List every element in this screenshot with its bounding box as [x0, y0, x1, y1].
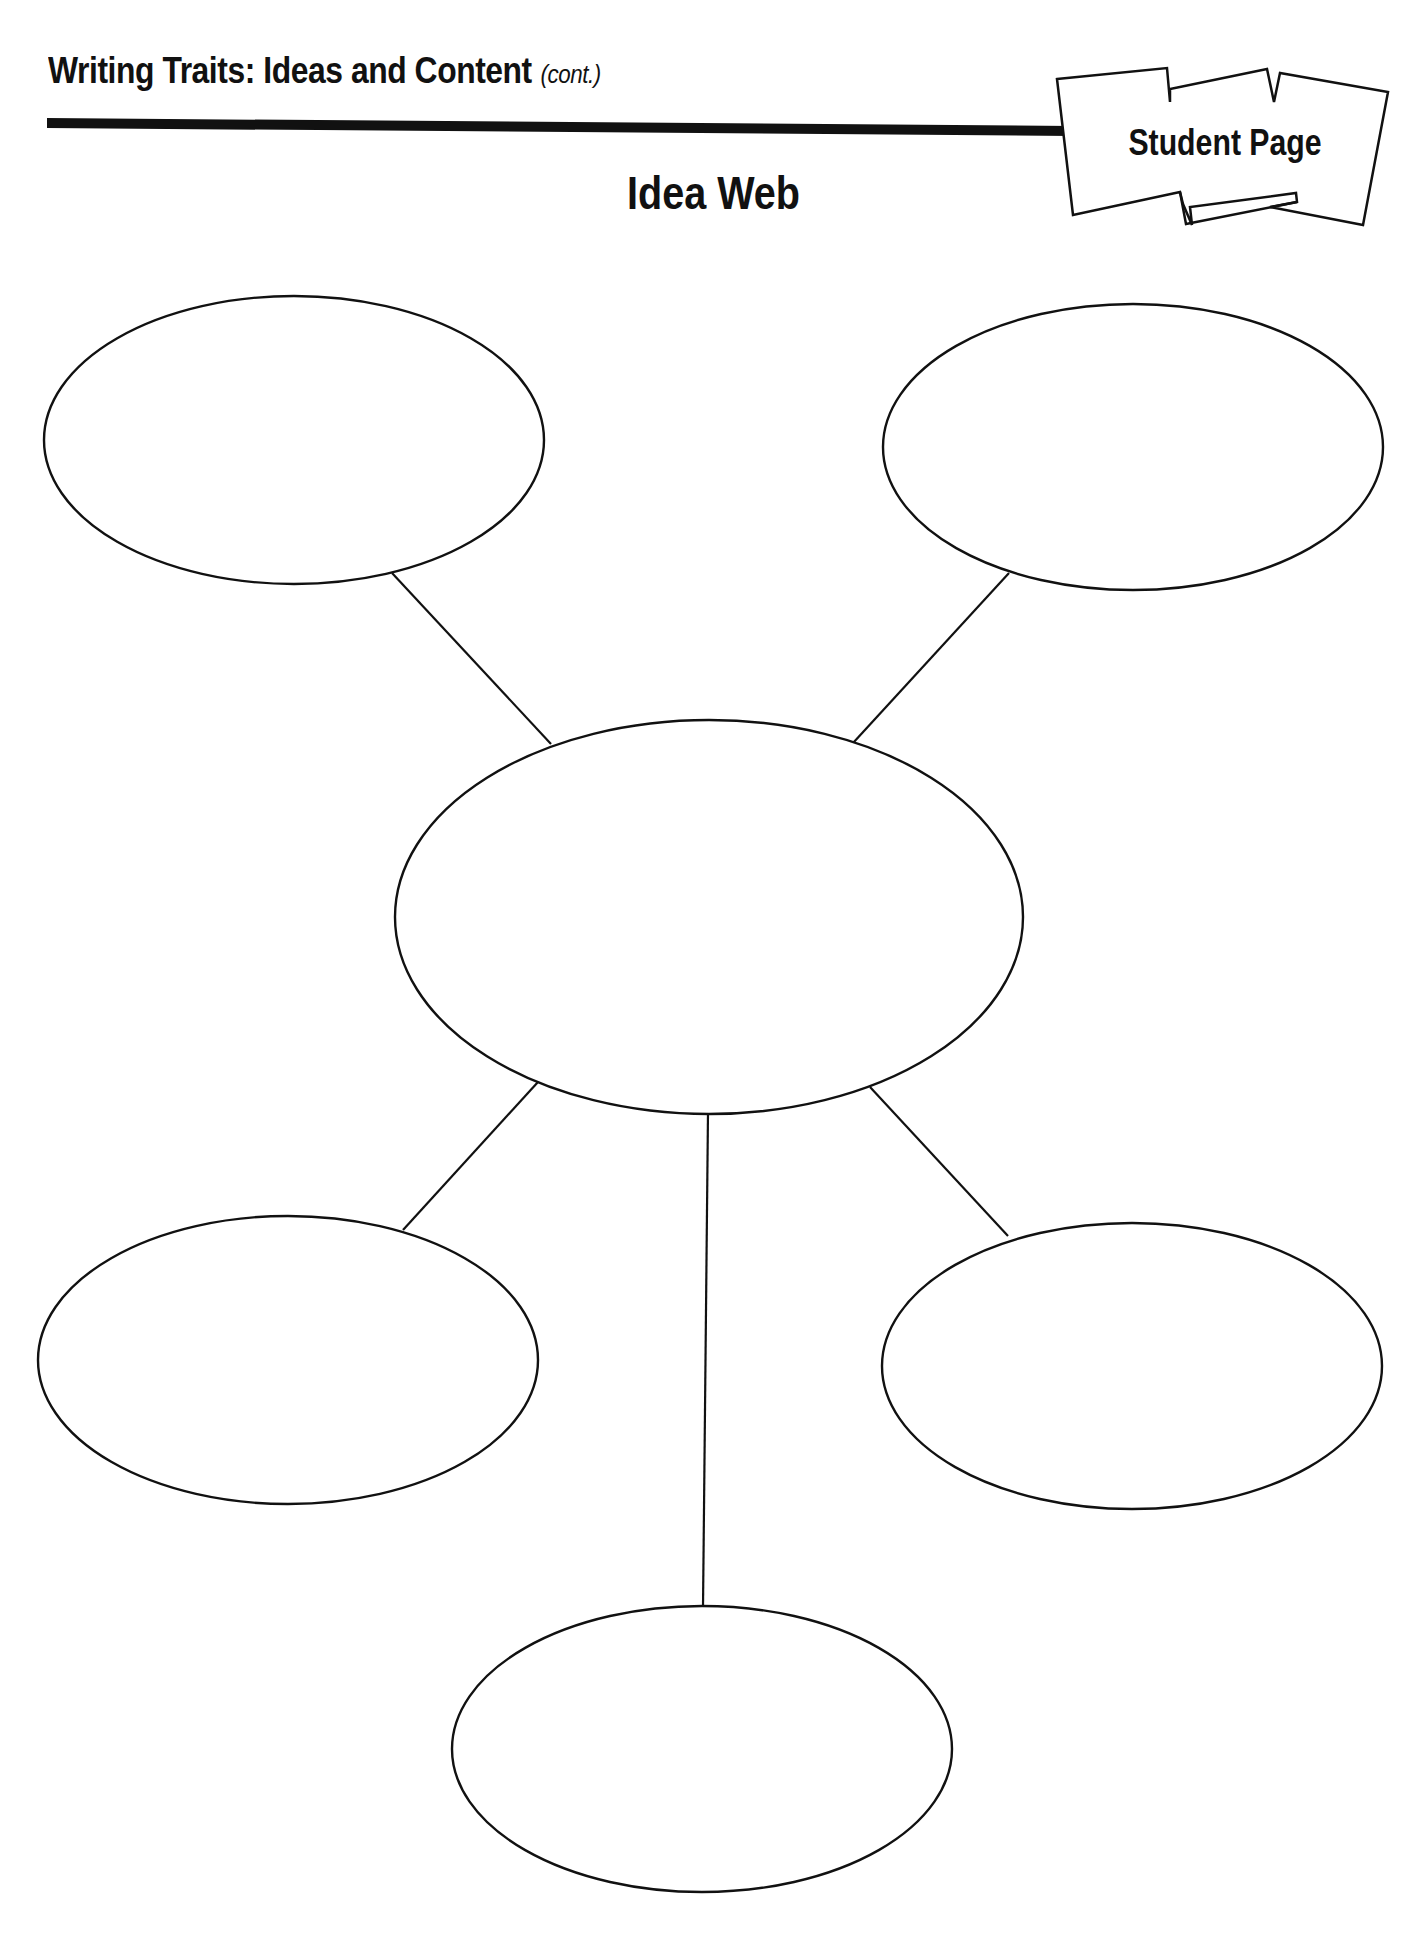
edge-bottom: [703, 1112, 708, 1608]
student-page-label: Student Page: [1090, 122, 1360, 164]
edge-top-left: [392, 573, 551, 744]
student-page-text: Student Page: [1128, 122, 1321, 164]
edge-bottom-right: [870, 1087, 1008, 1236]
page-title: Idea Web: [0, 166, 1428, 220]
node-top-left[interactable]: [44, 296, 544, 584]
header-rule: [47, 118, 1072, 136]
page-title-text: Idea Web: [628, 166, 801, 220]
node-center[interactable]: [395, 720, 1023, 1114]
node-bottom[interactable]: [452, 1606, 952, 1892]
node-top-right[interactable]: [883, 304, 1383, 590]
edge-top-right: [853, 573, 1009, 743]
idea-web-diagram: [0, 0, 1428, 1933]
node-bottom-right[interactable]: [882, 1223, 1382, 1509]
edge-bottom-left: [403, 1082, 538, 1230]
node-bottom-left[interactable]: [38, 1216, 538, 1504]
